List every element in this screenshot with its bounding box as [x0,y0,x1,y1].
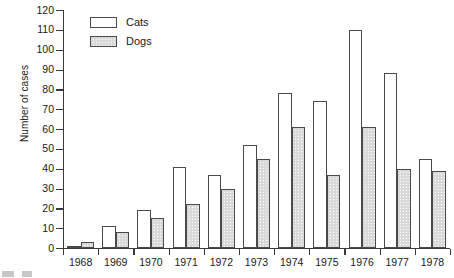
bar-dogs-1974 [292,127,306,248]
y-tick-label: 10 [42,223,54,234]
bar-cats-1978 [419,159,433,248]
y-tick-mark [56,149,63,150]
x-tick-mark [309,249,310,255]
x-tick-mark [204,249,205,255]
x-tick-mark [133,249,134,255]
x-tick-mark [169,249,170,255]
x-tick-mark [274,249,275,255]
legend-swatch-cats-icon [90,17,117,28]
x-tick-mark [98,249,99,255]
x-tick-mark [239,249,240,255]
y-tick-label: 100 [36,44,54,55]
y-tick-label: 120 [36,5,54,16]
y-tick-label: 60 [42,124,54,135]
bar-cats-1974 [278,93,292,248]
y-tick-mark [56,89,63,90]
x-tick-mark [344,249,345,255]
y-axis-line [63,10,64,249]
y-tick-mark [56,70,63,71]
y-tick-mark [56,109,63,110]
page-artifact-mark-left [2,271,14,277]
legend-item-cats: Cats [90,14,152,30]
x-tick-mark [450,249,451,255]
bar-cats-1975 [313,101,327,248]
bar-cats-1971 [173,167,187,248]
y-tick-mark [56,189,63,190]
y-tick-label: 80 [42,84,54,95]
bar-dogs-1968 [81,242,95,248]
y-tick-mark [56,228,63,229]
bar-dogs-1976 [362,127,376,248]
bar-dogs-1975 [327,175,341,248]
y-tick-mark [56,169,63,170]
bar-dogs-1971 [186,204,200,248]
y-tick-label: 90 [42,64,54,75]
y-tick-label: 110 [37,24,54,35]
y-tick-mark [56,30,63,31]
bar-dogs-1969 [116,232,130,248]
bar-dogs-1972 [221,189,235,249]
bar-dogs-1978 [432,171,446,248]
bar-dogs-1977 [397,169,411,248]
x-axis-line [63,248,450,249]
y-tick-mark [56,208,63,209]
x-tick-label: 1978 [407,256,454,268]
y-tick-mark [56,10,63,11]
y-axis-title: Number of cases [19,34,30,174]
y-tick-label: 40 [42,163,54,174]
bar-cats-1973 [243,145,257,248]
y-tick-mark [56,50,63,51]
y-tick-label: 20 [42,203,54,214]
y-tick-label: 30 [42,183,54,194]
bar-cats-1969 [102,226,116,248]
y-tick-label: 0 [48,243,54,254]
legend-swatch-dogs-icon [90,36,117,47]
y-tick-label: 50 [42,143,54,154]
legend-label-dogs: Dogs [126,36,152,47]
legend-label-cats: Cats [126,17,149,28]
bar-dogs-1973 [257,159,271,248]
bar-cats-1972 [208,175,222,248]
y-tick-label: 70 [42,104,54,115]
x-tick-mark [415,249,416,255]
bar-cats-1968 [67,246,81,248]
x-tick-mark [380,249,381,255]
y-tick-mark [56,129,63,130]
bar-cats-1977 [384,73,398,248]
legend: Cats Dogs [90,14,152,52]
y-tick-mark [56,248,63,249]
bar-dogs-1970 [151,218,165,248]
bar-cats-1970 [137,210,151,248]
page-artifact-mark-right [22,271,32,277]
x-tick-mark [63,249,64,255]
legend-item-dogs: Dogs [90,33,152,49]
bar-chart: Number of cases 010203040506070809010011… [0,0,454,278]
bar-cats-1976 [349,30,363,248]
